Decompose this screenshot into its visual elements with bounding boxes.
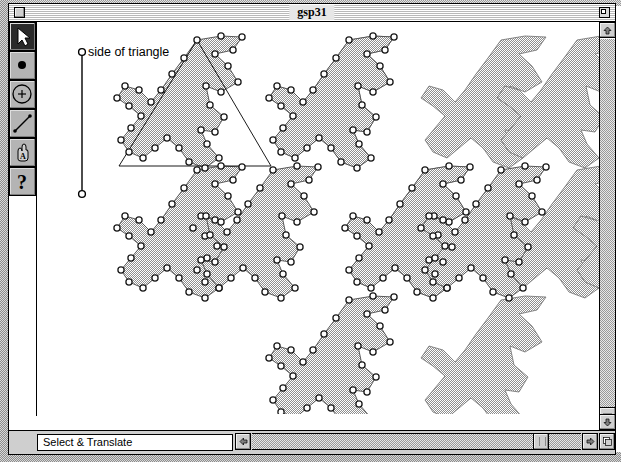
- point-dot-icon: [10, 52, 35, 79]
- side-of-triangle-label[interactable]: side of triangle: [88, 45, 169, 59]
- scroll-down-arrow-button[interactable]: [600, 414, 615, 430]
- straightedge-segment-tool[interactable]: [9, 109, 36, 138]
- scroll-up-arrow-button[interactable]: [600, 22, 615, 38]
- horizontal-scrollbar-thumb[interactable]: [533, 434, 549, 449]
- status-text-field[interactable]: Select & Translate: [37, 434, 233, 451]
- selection-arrow-tool[interactable]: [9, 22, 36, 51]
- grow-box-resize-handle[interactable]: [599, 433, 615, 450]
- resize-grip-icon: [603, 437, 612, 446]
- arrow-icon: [10, 23, 35, 50]
- chevron-down-icon: [603, 418, 612, 427]
- sketch-window: gsp31: [8, 3, 616, 455]
- chevron-left-icon: [239, 437, 248, 446]
- horizontal-scrollbar-track[interactable]: [252, 433, 581, 450]
- side-of-triangle-segment[interactable]: [79, 49, 86, 198]
- information-tool[interactable]: ?: [9, 167, 36, 196]
- chevron-right-icon: [586, 437, 595, 446]
- tessellation-drawing: side of triangle: [37, 22, 599, 414]
- window-bottom-bar: Select & Translate: [9, 430, 615, 454]
- chevron-up-icon: [603, 26, 612, 35]
- vertical-scrollbar[interactable]: [599, 22, 615, 430]
- sketch-canvas[interactable]: side of triangle: [37, 22, 599, 414]
- toolbox-palette: A ?: [9, 22, 37, 416]
- scroll-left-arrow-button[interactable]: [235, 433, 251, 450]
- svg-text:A: A: [20, 152, 26, 161]
- scroll-right-arrow-button[interactable]: [582, 433, 598, 450]
- vertical-scrollbar-track[interactable]: [600, 39, 615, 413]
- desktop-pattern-left: [0, 0, 8, 462]
- compass-circle-tool[interactable]: [9, 80, 36, 109]
- desktop-background: gsp31: [0, 0, 621, 462]
- text-label-tool[interactable]: A: [9, 138, 36, 167]
- horizontal-scrollbar[interactable]: [235, 431, 615, 454]
- window-titlebar[interactable]: gsp31: [9, 4, 615, 22]
- point-tool[interactable]: [9, 51, 36, 80]
- svg-text:?: ?: [17, 171, 27, 193]
- hand-with-a-icon: A: [10, 139, 35, 166]
- segment-line-icon: [10, 110, 35, 137]
- window-title: gsp31: [289, 5, 334, 20]
- close-box-icon[interactable]: [14, 7, 25, 18]
- question-mark-icon: ?: [10, 168, 35, 195]
- zoom-box-icon[interactable]: [599, 7, 610, 18]
- compass-circle-icon: [10, 81, 35, 108]
